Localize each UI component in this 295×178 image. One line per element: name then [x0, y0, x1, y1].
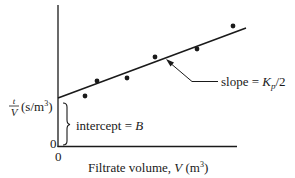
fit-line [58, 28, 246, 98]
svg-text:(s/m3): (s/m3) [21, 99, 52, 114]
data-point [125, 76, 130, 81]
slope-leader [166, 59, 218, 82]
data-point [153, 55, 158, 60]
x-origin-label: 0 [55, 149, 62, 164]
filtration-diagram: slope = Kp/2 intercept = B t V (s/m3) 0 … [0, 0, 295, 178]
data-point [95, 79, 100, 84]
data-point [83, 94, 88, 99]
data-point [195, 47, 200, 52]
svg-text:t: t [13, 96, 16, 106]
intercept-brace [63, 103, 70, 145]
data-point [231, 24, 236, 29]
intercept-label: intercept = B [76, 118, 143, 133]
slope-label: slope = Kp/2 [221, 74, 286, 91]
arrow-leader-line [169, 62, 218, 82]
y-axis-label: t V (s/m3) [9, 96, 52, 118]
svg-text:V: V [11, 106, 19, 118]
x-axis-label: Filtrate volume, V (m3) [88, 160, 208, 175]
